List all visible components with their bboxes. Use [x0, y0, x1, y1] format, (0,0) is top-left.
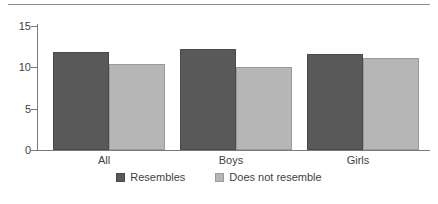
y-tick-15	[31, 26, 37, 27]
y-tick-label-10-wrap: 10	[0, 62, 31, 73]
chart-legend: Resembles Does not resemble	[0, 172, 438, 183]
y-tick-label-5: 5	[5, 104, 31, 115]
x-category-label-girls: Girls	[303, 154, 413, 167]
y-axis-line	[37, 24, 38, 151]
y-tick-0	[31, 150, 37, 151]
bar-resembles-all	[53, 52, 109, 150]
y-tick-label-15: 15	[5, 21, 31, 32]
y-tick-label-0-wrap: 0	[0, 145, 31, 156]
bar-does-not-resemble-girls	[363, 58, 419, 150]
bar-does-not-resemble-boys	[236, 67, 292, 150]
bar-chart-figure: 15 10 5 0 All Boys Girls Resembles Does …	[0, 0, 438, 204]
legend-item-does-not-resemble: Does not resemble	[215, 172, 321, 183]
legend-label-does-not-resemble: Does not resemble	[229, 172, 321, 183]
y-tick-label-0: 0	[5, 145, 31, 156]
y-tick-label-10: 10	[5, 62, 31, 73]
legend-swatch-does-not-resemble-icon	[215, 173, 224, 182]
y-tick-label-15-wrap: 15	[0, 21, 31, 32]
x-category-label-boys: Boys	[176, 154, 286, 167]
y-tick-5	[31, 109, 37, 110]
x-category-label-all: All	[49, 154, 159, 167]
y-tick-10	[31, 67, 37, 68]
legend-swatch-resembles-icon	[116, 173, 125, 182]
bar-resembles-boys	[180, 49, 236, 150]
bar-resembles-girls	[307, 54, 363, 150]
legend-item-resembles: Resembles	[116, 172, 185, 183]
legend-label-resembles: Resembles	[130, 172, 185, 183]
bar-does-not-resemble-all	[109, 64, 165, 150]
y-tick-label-5-wrap: 5	[0, 104, 31, 115]
x-axis-line	[37, 150, 430, 151]
